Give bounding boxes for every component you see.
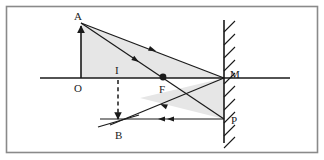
focal-point-dot: [160, 74, 167, 81]
label-O: O: [74, 82, 82, 94]
image-triangle-shade: [140, 78, 224, 119]
diagram-canvas: A O I F B M P: [0, 0, 324, 160]
optics-ray-diagram: A O I F B M P: [0, 0, 324, 160]
label-A: A: [74, 10, 82, 22]
label-F: F: [159, 83, 165, 95]
label-P: P: [231, 114, 237, 126]
mirror-hatching: [224, 21, 235, 148]
label-M: M: [230, 68, 240, 80]
mirror: [224, 20, 235, 148]
label-I: I: [115, 64, 119, 76]
label-B: B: [115, 129, 122, 141]
